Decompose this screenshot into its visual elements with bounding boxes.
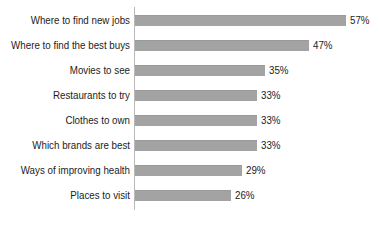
bar-category-label: Ways of improving health — [11, 163, 130, 178]
bar-segment — [135, 15, 346, 26]
bar-segment — [135, 165, 242, 176]
bar-value-label: 47% — [313, 38, 333, 53]
bar-value-label: 33% — [261, 113, 281, 128]
table-row: Ways of improving health 29% — [0, 165, 379, 177]
bar-value-label: 26% — [235, 188, 255, 203]
table-row: Where to find the best buys 47% — [0, 40, 379, 52]
bar-category-label: Places to visit — [11, 188, 130, 203]
bar-category-label: Clothes to own — [11, 113, 130, 128]
bar-segment — [135, 190, 231, 201]
table-row: Movies to see 35% — [0, 65, 379, 77]
bar-value-label: 33% — [261, 88, 281, 103]
table-row: Places to visit 26% — [0, 190, 379, 202]
bar-segment — [135, 65, 265, 76]
bar-chart: Where to find new jobs 57% Where to find… — [0, 0, 379, 226]
table-row: Which brands are best 33% — [0, 140, 379, 152]
bar-category-label: Movies to see — [11, 63, 130, 78]
bar-category-label: Where to find the best buys — [11, 38, 130, 53]
bar-category-label: Where to find new jobs — [11, 13, 130, 28]
bar-value-label: 33% — [261, 138, 281, 153]
bar-segment — [135, 40, 309, 51]
bar-rows-container: Where to find new jobs 57% Where to find… — [0, 0, 379, 226]
bar-category-label: Which brands are best — [11, 138, 130, 153]
bar-value-label: 35% — [269, 63, 289, 78]
bar-segment — [135, 115, 257, 126]
bar-category-label: Restaurants to try — [11, 88, 130, 103]
bar-segment — [135, 140, 257, 151]
bar-segment — [135, 90, 257, 101]
table-row: Restaurants to try 33% — [0, 90, 379, 102]
bar-value-label: 29% — [246, 163, 266, 178]
table-row: Where to find new jobs 57% — [0, 15, 379, 27]
bar-value-label: 57% — [350, 13, 370, 28]
table-row: Clothes to own 33% — [0, 115, 379, 127]
